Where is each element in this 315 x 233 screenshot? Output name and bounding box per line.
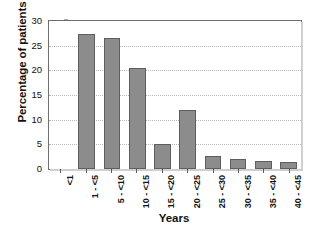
x-tick-slot xyxy=(175,169,200,174)
plot-area xyxy=(48,20,302,170)
y-tick-label: 0 xyxy=(20,163,42,174)
x-label-slot: <1 xyxy=(48,175,73,209)
x-tick-slot xyxy=(124,169,149,174)
x-label-slot: 40 - <45 xyxy=(277,175,302,209)
x-tick-mark xyxy=(263,169,264,173)
x-tick-mark xyxy=(238,169,239,173)
bar[interactable] xyxy=(205,156,222,169)
bar-chart: Percentage of patients 051015202530 <11 … xyxy=(0,0,315,233)
x-axis-tick-labels: <11 - <55 - <1010 - <1515 - <2020 - <252… xyxy=(48,175,302,209)
bar-slot xyxy=(99,21,124,169)
x-tick-mark xyxy=(162,169,163,173)
x-label-slot: 30 - <35 xyxy=(226,175,251,209)
x-tick-mark xyxy=(187,169,188,173)
x-tick-slot xyxy=(226,169,251,174)
bar-slot xyxy=(125,21,150,169)
bar-slot xyxy=(251,21,276,169)
x-tick-slot xyxy=(48,169,73,174)
x-label-slot: 35 - <40 xyxy=(251,175,276,209)
bars-group xyxy=(49,21,301,169)
y-tick-label: 10 xyxy=(20,113,42,124)
x-axis-title: Years xyxy=(48,212,300,224)
x-tick-slot xyxy=(150,169,175,174)
bar[interactable] xyxy=(78,34,95,169)
x-tick-slot xyxy=(200,169,225,174)
x-tick-mark xyxy=(60,169,61,173)
x-axis-tick-marks xyxy=(48,169,302,174)
x-tick-mark xyxy=(289,169,290,173)
bar[interactable] xyxy=(104,38,121,169)
x-tick-mark xyxy=(213,169,214,173)
y-tick-label: 20 xyxy=(20,64,42,75)
x-label-slot: 15 - <20 xyxy=(150,175,175,209)
bar[interactable] xyxy=(255,161,272,169)
x-tick-mark xyxy=(86,169,87,173)
x-label-slot: 25 - <30 xyxy=(200,175,225,209)
x-tick-slot xyxy=(277,169,302,174)
y-tick-label: 25 xyxy=(20,39,42,50)
y-tick-label: 15 xyxy=(20,89,42,100)
y-axis-tick-labels: 051015202530 xyxy=(20,14,42,170)
bar-slot xyxy=(276,21,301,169)
bar-slot xyxy=(225,21,250,169)
y-tick-label: 30 xyxy=(20,15,42,26)
bar[interactable] xyxy=(129,68,146,169)
x-tick-slot xyxy=(99,169,124,174)
x-label-slot: 5 - <10 xyxy=(99,175,124,209)
x-tick-mark xyxy=(111,169,112,173)
x-tick-slot xyxy=(73,169,98,174)
bar[interactable] xyxy=(179,110,196,169)
x-label-slot: 10 - <15 xyxy=(124,175,149,209)
bar[interactable] xyxy=(154,144,171,169)
bar-slot xyxy=(49,21,74,169)
x-tick-label: 40 - <45 xyxy=(293,175,303,208)
y-tick-label: 5 xyxy=(20,138,42,149)
bar[interactable] xyxy=(230,159,247,169)
bar-slot xyxy=(175,21,200,169)
bar[interactable] xyxy=(280,162,297,169)
x-tick-mark xyxy=(136,169,137,173)
x-tick-slot xyxy=(251,169,276,174)
bar-slot xyxy=(74,21,99,169)
x-label-slot: 1 - <5 xyxy=(73,175,98,209)
bar-slot xyxy=(200,21,225,169)
bar-slot xyxy=(150,21,175,169)
x-label-slot: 20 - <25 xyxy=(175,175,200,209)
